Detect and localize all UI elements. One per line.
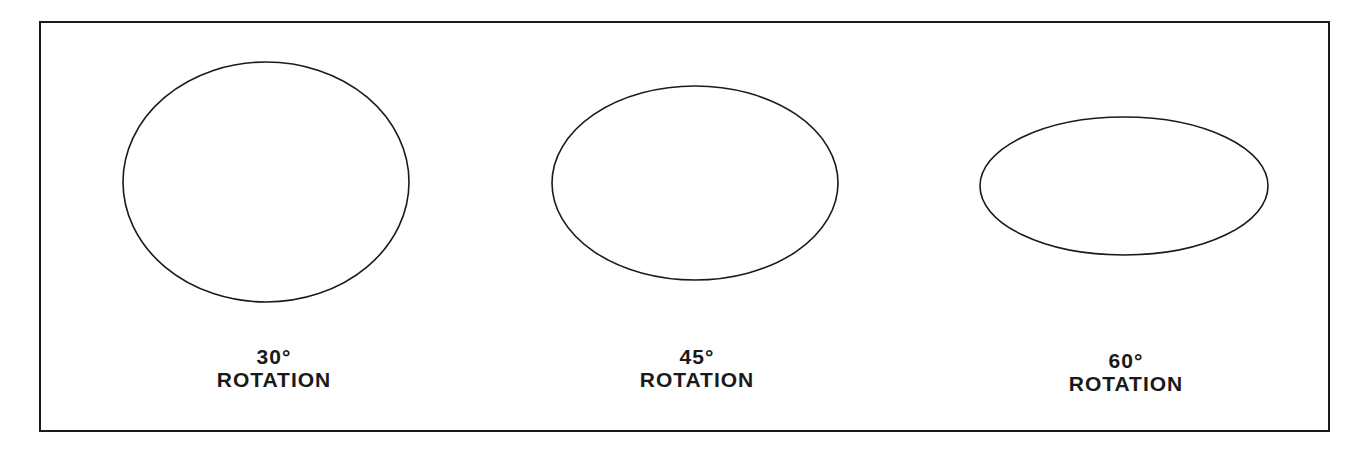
label-30-rotation: 30° ROTATION — [144, 345, 404, 391]
caption-text: ROTATION — [144, 368, 404, 391]
caption-text: ROTATION — [567, 368, 827, 391]
label-60-rotation: 60° ROTATION — [996, 349, 1256, 395]
ellipse-45-rotation — [552, 86, 838, 280]
angle-text: 60° — [996, 349, 1256, 372]
angle-text: 30° — [144, 345, 404, 368]
caption-text: ROTATION — [996, 372, 1256, 395]
ellipse-30-rotation — [123, 62, 409, 302]
ellipse-60-rotation — [980, 117, 1268, 255]
label-45-rotation: 45° ROTATION — [567, 345, 827, 391]
angle-text: 45° — [567, 345, 827, 368]
